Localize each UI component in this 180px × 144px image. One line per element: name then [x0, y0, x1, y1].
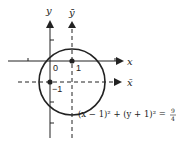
point-center: [69, 58, 74, 63]
x-axis-label: x: [127, 56, 133, 67]
one-label: 1: [76, 63, 81, 73]
xbar-axis-label: x̄: [127, 77, 133, 88]
origin-label: 0: [53, 63, 58, 73]
equation-fraction-numerator: 9: [171, 107, 175, 114]
equation-fraction-denominator: 4: [171, 115, 175, 122]
ybar-axis-label: ȳ: [68, 7, 75, 18]
ybar-arrow-icon: [68, 21, 76, 28]
y-axis-label: y: [45, 5, 52, 16]
equation-left: (x − 1)² + (y + 1)² =: [78, 109, 166, 119]
circle-diagram: y ȳ x x̄ 0 1 −1 (x − 1)² + (y + 1)² = 9 …: [0, 0, 180, 144]
minus-one-label: −1: [52, 84, 62, 94]
xbar-arrow-icon: [114, 78, 122, 86]
circle-equation: (x − 1)² + (y + 1)² =: [78, 109, 166, 119]
